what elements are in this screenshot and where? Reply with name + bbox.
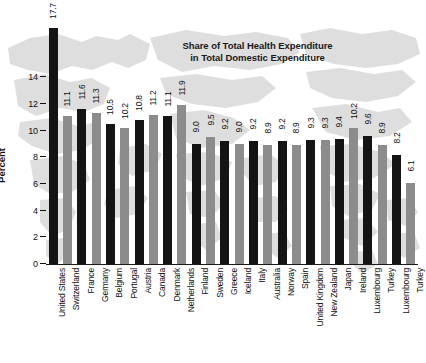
y-tick-label: 2 bbox=[33, 232, 38, 242]
category-label-text: Iceland bbox=[243, 268, 253, 294]
category-label-text: Luxembourg bbox=[401, 268, 411, 314]
bar-turkey[interactable] bbox=[406, 183, 415, 264]
category-label-text: Luxembourg bbox=[372, 268, 382, 314]
bar-ireland[interactable] bbox=[349, 128, 358, 264]
bar-value-label: 9.3 bbox=[306, 117, 316, 128]
bar-value-label: 9.5 bbox=[206, 115, 216, 126]
bar-value-label: 9.0 bbox=[234, 121, 244, 132]
category-label-text: Japan bbox=[343, 268, 353, 290]
y-tick-4: 4 bbox=[33, 206, 46, 216]
bar-united-states[interactable] bbox=[49, 28, 58, 264]
category-label-text: Ireland bbox=[358, 268, 368, 293]
bar-france[interactable] bbox=[77, 109, 86, 264]
bar-value-label: 9.4 bbox=[334, 116, 344, 127]
bar-value-label: 9.3 bbox=[320, 117, 330, 128]
category-label-text: Canada bbox=[157, 268, 167, 297]
bar-switzerland[interactable] bbox=[63, 116, 72, 264]
category-label-text: Finland bbox=[200, 268, 210, 295]
y-tick-label: 6 bbox=[33, 179, 38, 189]
bar-united-kingdom[interactable] bbox=[306, 140, 315, 264]
y-tick-12: 12 bbox=[28, 99, 46, 109]
bar-sweden[interactable] bbox=[206, 137, 215, 264]
y-axis: 02468101214 bbox=[0, 0, 46, 288]
y-tick-label: 0 bbox=[33, 259, 38, 269]
bar-slot: 10.8 bbox=[135, 24, 144, 264]
y-tick-label: 14 bbox=[28, 72, 38, 82]
bar-slot: 11.1 bbox=[63, 24, 72, 264]
y-tick-label: 12 bbox=[28, 99, 38, 109]
bar-slot: 11.9 bbox=[177, 24, 186, 264]
bar-canada[interactable] bbox=[149, 115, 158, 264]
bar-australia[interactable] bbox=[263, 145, 272, 264]
bar-slot: 8.2 bbox=[392, 24, 401, 264]
y-tick-label: 4 bbox=[33, 206, 38, 216]
bar-slot: 8.9 bbox=[378, 24, 387, 264]
bar-slot: 9.3 bbox=[321, 24, 330, 264]
bar-italy[interactable] bbox=[249, 141, 258, 264]
bar-value-label: 11.9 bbox=[177, 81, 187, 96]
y-tick-label: 8 bbox=[33, 152, 38, 162]
bar-norway[interactable] bbox=[278, 141, 287, 264]
bar-slot: 9.0 bbox=[192, 24, 201, 264]
bar-slot: 11.2 bbox=[149, 24, 158, 264]
category-label-text: Greece bbox=[229, 268, 239, 295]
bar-value-label: 10.8 bbox=[134, 95, 144, 111]
bar-value-label: 11.2 bbox=[148, 90, 158, 105]
bar-slot: 11.6 bbox=[77, 24, 86, 264]
bar-slot: 8.9 bbox=[263, 24, 272, 264]
category-label-text: New Zealand bbox=[329, 268, 339, 316]
y-tick-2: 2 bbox=[33, 232, 46, 242]
bar-slot: 11.1 bbox=[163, 24, 172, 264]
bar-value-label: 9.2 bbox=[248, 119, 258, 130]
bar-greece[interactable] bbox=[220, 141, 229, 264]
bar-iceland[interactable] bbox=[235, 144, 244, 264]
bar-value-label: 8.2 bbox=[392, 132, 402, 143]
bar-value-label: 9.6 bbox=[363, 113, 373, 124]
bar-slot: 9.2 bbox=[249, 24, 258, 264]
category-label-text: France bbox=[86, 268, 96, 294]
category-label-text: Denmark bbox=[172, 268, 182, 301]
bar-luxembourg[interactable] bbox=[363, 136, 372, 264]
category-label-text: United Kingdom bbox=[315, 268, 325, 326]
bar-value-label: 6.1 bbox=[406, 160, 416, 171]
bar-new-zealand[interactable] bbox=[321, 140, 330, 264]
bar-turkey[interactable] bbox=[378, 145, 387, 264]
category-label-text: Australia bbox=[272, 268, 282, 300]
bar-finland[interactable] bbox=[192, 144, 201, 264]
health-expenditure-bar-chart: 02468101214 Percent Share of Total Healt… bbox=[0, 0, 426, 363]
bar-denmark[interactable] bbox=[163, 116, 172, 264]
y-tick-8: 8 bbox=[33, 152, 46, 162]
bar-slot: 9.5 bbox=[206, 24, 215, 264]
category-label-text: Turkey bbox=[386, 268, 396, 293]
bar-austria[interactable] bbox=[135, 120, 144, 264]
category-label-text: Austria bbox=[143, 268, 153, 293]
bar-value-label: 11.1 bbox=[62, 91, 72, 106]
bar-value-label: 10.2 bbox=[349, 103, 359, 119]
category-label-text: Norway bbox=[286, 268, 296, 296]
bar-portugal[interactable] bbox=[120, 128, 129, 264]
bar-slot: 17.7 bbox=[49, 24, 58, 264]
bar-value-label: 8.9 bbox=[377, 123, 387, 134]
bar-value-label: 8.9 bbox=[263, 123, 273, 134]
bar-slot: 6.1 bbox=[406, 24, 415, 264]
bar-slot: 10.2 bbox=[120, 24, 129, 264]
bar-value-label: 10.5 bbox=[105, 99, 115, 115]
y-tick-0: 0 bbox=[33, 259, 46, 269]
bar-belgium[interactable] bbox=[106, 124, 115, 264]
y-tick-6: 6 bbox=[33, 179, 46, 189]
y-tick-14: 14 bbox=[28, 72, 46, 82]
bar-value-label: 10.2 bbox=[120, 103, 130, 119]
bar-netherlands[interactable] bbox=[177, 105, 186, 264]
bar-value-label: 8.9 bbox=[291, 123, 301, 134]
bar-slot: 9.3 bbox=[306, 24, 315, 264]
category-label-text: United States bbox=[57, 268, 67, 317]
category-label-text: Netherlands bbox=[186, 268, 196, 312]
bar-germany[interactable] bbox=[92, 113, 101, 264]
category-label-text: Belgium bbox=[114, 268, 124, 298]
bar-luxembourg[interactable] bbox=[392, 155, 401, 264]
bar-slot: 10.2 bbox=[349, 24, 358, 264]
category-labels: United StatesSwitzerlandFranceGermanyBel… bbox=[46, 268, 418, 363]
y-tick-label: 10 bbox=[28, 126, 38, 136]
bar-spain[interactable] bbox=[292, 145, 301, 264]
bar-japan[interactable] bbox=[335, 139, 344, 264]
